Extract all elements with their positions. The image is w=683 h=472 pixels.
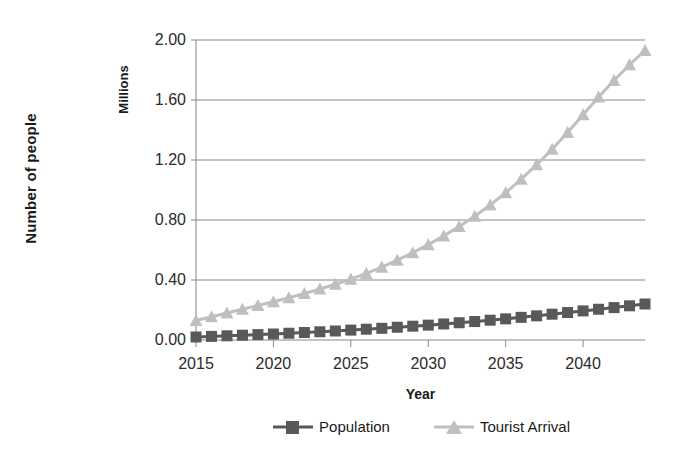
x-axis-tick-label: 2040 (553, 356, 613, 372)
chart-legend: Population Tourist Arrival (196, 418, 645, 435)
x-axis-tick-label: 2030 (398, 356, 458, 372)
legend-item-population[interactable]: Population (271, 418, 390, 435)
legend-marker-square-icon (271, 419, 315, 435)
chart-container: Number of people Millions 0.000.400.801.… (0, 0, 683, 472)
x-axis-tick-label: 2015 (166, 356, 226, 372)
legend-marker-triangle-icon (432, 419, 476, 435)
legend-item-tourist-arrival[interactable]: Tourist Arrival (432, 418, 570, 435)
x-axis-title: Year (196, 386, 645, 402)
x-axis-tick-label: 2020 (243, 356, 303, 372)
x-axis-tick-label: 2035 (476, 356, 536, 372)
legend-label-population: Population (319, 418, 390, 435)
x-axis-tick-label: 2025 (321, 356, 381, 372)
legend-label-tourist-arrival: Tourist Arrival (480, 418, 570, 435)
